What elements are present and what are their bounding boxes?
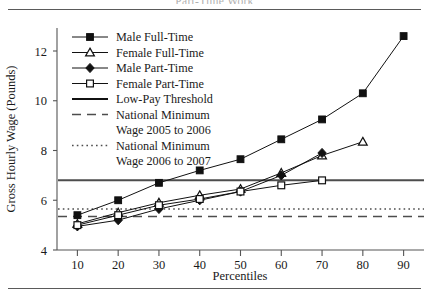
- data-point: [74, 222, 81, 229]
- data-point: [87, 80, 94, 87]
- x-tick-label-60: 60: [275, 258, 288, 272]
- legend-label: Female Part-Time: [116, 77, 204, 91]
- data-point: [86, 63, 94, 72]
- y-axis-ticks: [53, 51, 57, 250]
- x-axis-title: Percentiles: [213, 269, 268, 283]
- chart-legend: Male Full-TimeFemale Full-TimeMale Part-…: [72, 30, 213, 168]
- x-tick-label-80: 80: [357, 258, 370, 272]
- figure-container: Part-Time Work 4681012 10203040506070809…: [0, 0, 429, 297]
- data-point: [87, 34, 94, 41]
- bottom-horizontal-rule: [8, 288, 421, 289]
- clipped-figure-title: Part-Time Work: [0, 0, 429, 4]
- legend-entry-5: National MinimumWage 2005 to 2006: [72, 108, 211, 137]
- legend-label: Male Full-Time: [116, 30, 193, 44]
- data-point: [358, 137, 367, 145]
- x-tick-label-40: 40: [193, 258, 206, 272]
- data-point: [278, 182, 285, 189]
- legend-entry-6: National MinimumWage 2006 to 2007: [72, 139, 211, 169]
- legend-entry-3: Female Part-Time: [72, 77, 204, 91]
- data-point: [196, 196, 203, 203]
- line-chart: 4681012 102030405060708090 Gross Hourly …: [0, 0, 429, 297]
- legend-label: National Minimum: [116, 139, 210, 153]
- data-point: [400, 33, 407, 40]
- data-point: [115, 197, 122, 204]
- y-tick-label-8: 8: [41, 144, 47, 158]
- legend-entry-1: Female Full-Time: [72, 46, 204, 60]
- x-tick-label-10: 10: [71, 258, 84, 272]
- legend-label: National Minimum: [116, 108, 210, 122]
- y-axis-tick-labels: 4681012: [35, 45, 48, 258]
- x-axis-ticks: [77, 250, 403, 256]
- x-tick-label-20: 20: [112, 258, 125, 272]
- legend-label: Female Full-Time: [116, 46, 204, 60]
- y-tick-label-10: 10: [35, 94, 48, 108]
- data-point: [319, 116, 326, 123]
- y-tick-label-4: 4: [41, 244, 48, 258]
- data-point: [278, 136, 285, 143]
- legend-entry-2: Male Part-Time: [72, 61, 193, 75]
- data-point: [319, 177, 326, 184]
- legend-label: Low-Pay Threshold: [116, 92, 213, 106]
- y-tick-label-6: 6: [41, 194, 47, 208]
- legend-label-line2: Wage 2006 to 2007: [116, 154, 211, 168]
- x-tick-label-90: 90: [397, 258, 410, 272]
- x-tick-label-30: 30: [153, 258, 166, 272]
- top-horizontal-rule: [8, 9, 421, 10]
- data-point: [156, 202, 163, 209]
- data-point: [74, 212, 81, 219]
- legend-label-line2: Wage 2005 to 2006: [116, 123, 211, 137]
- data-point: [359, 90, 366, 97]
- data-point: [115, 212, 122, 219]
- legend-entry-4: Low-Pay Threshold: [72, 92, 213, 106]
- data-point: [237, 188, 244, 195]
- legend-entry-0: Male Full-Time: [72, 30, 193, 44]
- x-tick-label-70: 70: [316, 258, 329, 272]
- data-point: [237, 156, 244, 163]
- y-axis-title: Gross Hourly Wage (Pounds): [4, 65, 18, 212]
- y-tick-label-12: 12: [35, 45, 48, 59]
- legend-label: Male Part-Time: [116, 61, 193, 75]
- data-point: [156, 179, 163, 186]
